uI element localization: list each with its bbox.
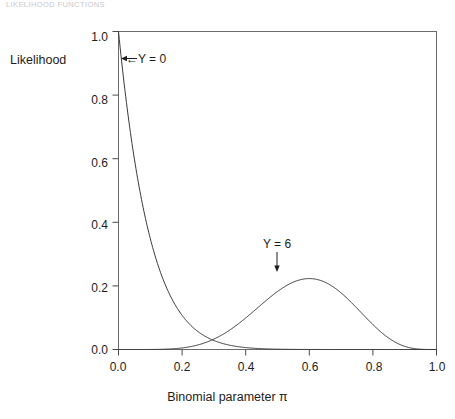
data-curves bbox=[119, 32, 437, 350]
plot-canvas bbox=[0, 0, 455, 419]
y-tick-marks bbox=[113, 32, 119, 350]
curve-y0 bbox=[119, 32, 437, 350]
annotation-arrows bbox=[121, 56, 280, 272]
figure: LIKELIHOOD FUNCTIONS Likelihood Binomial… bbox=[0, 0, 455, 419]
x-tick-marks bbox=[119, 350, 437, 356]
curve-y6 bbox=[119, 279, 437, 350]
plot-frame bbox=[119, 32, 437, 350]
